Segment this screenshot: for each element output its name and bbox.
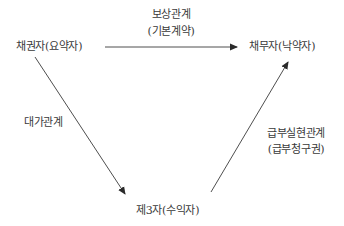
edge-performance-sublabel: (급부청구권) xyxy=(268,143,324,156)
edge-consideration-label: 대가관계 xyxy=(24,116,63,129)
node-third-party: 제3자(수익자) xyxy=(136,204,199,217)
contract-diagram: 채권자(요약자) 채무자(낙약자) 제3자(수익자) 보상관계 (기본계약) 대… xyxy=(0,0,344,226)
node-debtor: 채무자(낙약자) xyxy=(249,40,315,53)
edge-compensation-label: 보상관계 xyxy=(152,8,191,21)
edge-performance-label: 급부실현관계 xyxy=(267,127,325,140)
edge-compensation-sublabel: (기본계약) xyxy=(148,25,195,38)
node-creditor: 채권자(요약자) xyxy=(16,40,82,53)
